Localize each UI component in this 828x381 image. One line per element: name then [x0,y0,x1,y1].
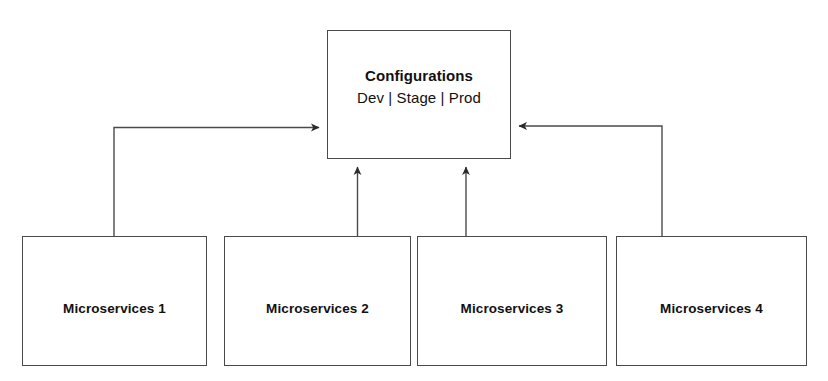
connector-microservices-4 [519,126,662,236]
microservices-2-node[interactable]: Microservices 2 [224,236,411,366]
microservices-3-node[interactable]: Microservices 3 [417,236,607,366]
connector-microservices-1 [114,128,319,237]
microservices-1-node[interactable]: Microservices 1 [22,236,207,366]
microservices-3-label: Microservices 3 [461,301,564,316]
microservices-4-node[interactable]: Microservices 4 [616,236,807,366]
configurations-node[interactable]: Configurations Dev | Stage | Prod [327,30,511,159]
diagram-canvas: Configurations Dev | Stage | Prod Micros… [0,0,828,381]
configurations-title: Configurations [365,67,473,86]
configurations-environments: Dev | Stage | Prod [357,88,481,108]
microservices-1-label: Microservices 1 [63,301,166,316]
microservices-2-label: Microservices 2 [266,301,369,316]
microservices-4-label: Microservices 4 [660,301,763,316]
